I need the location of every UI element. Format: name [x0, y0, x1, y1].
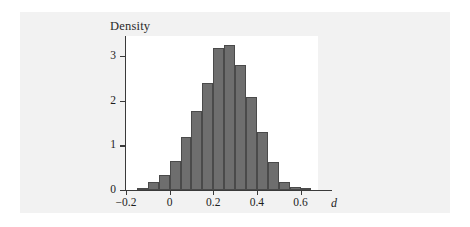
y-tick-mark — [120, 101, 125, 102]
x-tick-label: 0.6 — [281, 196, 321, 208]
y-axis-line — [125, 36, 126, 191]
histogram-bar — [202, 83, 213, 190]
histogram-bar — [246, 97, 257, 190]
y-tick-label: 0 — [92, 183, 116, 195]
histogram-bar — [279, 182, 290, 190]
histogram-bar — [235, 65, 246, 190]
x-tick-label: 0.4 — [237, 196, 277, 208]
histogram-bar — [191, 111, 202, 190]
x-tick-mark — [301, 191, 302, 195]
histogram-bar — [170, 161, 181, 190]
histogram-bar — [148, 182, 159, 190]
chart-title: Density — [110, 19, 150, 34]
y-tick-mark — [120, 190, 125, 191]
y-tick-label: 1 — [92, 138, 116, 150]
plot-area — [126, 36, 318, 190]
histogram-bar — [181, 137, 192, 190]
x-tick-mark — [126, 191, 127, 195]
histogram-bars — [126, 36, 318, 190]
x-tick-mark — [257, 191, 258, 195]
y-tick-mark — [120, 56, 125, 57]
histogram-bar — [268, 162, 279, 190]
x-tick-label: 0 — [150, 196, 190, 208]
histogram-figure: Density 0123 −0.200.20.40.6 d — [0, 0, 470, 227]
x-tick-label: 0.2 — [193, 196, 233, 208]
histogram-bar — [159, 175, 170, 190]
x-tick-mark — [213, 191, 214, 195]
histogram-bar — [224, 45, 235, 190]
y-tick-label: 2 — [92, 94, 116, 106]
x-tick-label: −0.2 — [106, 196, 146, 208]
y-tick-label: 3 — [92, 49, 116, 61]
histogram-bar — [257, 132, 268, 190]
x-tick-mark — [170, 191, 171, 195]
histogram-bar — [213, 48, 224, 190]
y-tick-mark — [120, 145, 125, 146]
x-axis-label: d — [331, 196, 337, 211]
